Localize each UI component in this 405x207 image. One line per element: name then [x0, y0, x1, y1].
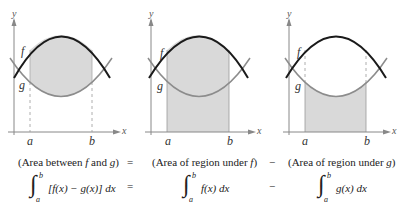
lower-bound: a — [36, 195, 40, 204]
label-b: b — [227, 135, 233, 147]
label-a: a — [302, 135, 308, 147]
panel-area-under-f: y x f g a b — [135, 0, 270, 145]
upper-bound: b — [39, 171, 43, 180]
y-axis-arrow-icon — [12, 18, 17, 26]
label-b: b — [364, 135, 370, 147]
label-g: g — [295, 80, 301, 92]
y-axis-label: y — [149, 9, 153, 19]
label-a: a — [165, 135, 171, 147]
formula-area-under-f: ∫ b a f(x) dx — [183, 174, 229, 202]
label-f: f — [297, 46, 300, 58]
label-g: g — [19, 79, 25, 91]
x-axis-arrow-icon — [248, 130, 256, 135]
x-axis-label: x — [392, 126, 396, 136]
panel-area-under-g: y x f g a b — [270, 0, 405, 145]
label-f: f — [160, 47, 163, 59]
graph-area-between — [0, 0, 135, 145]
shaded-region-under-f — [167, 35, 229, 132]
integral-sign-icon: ∫ b a — [30, 174, 46, 202]
caption-minus: − — [269, 156, 275, 168]
y-axis-arrow-icon — [149, 18, 154, 26]
x-axis-label: x — [257, 126, 261, 136]
label-b: b — [89, 135, 95, 147]
caption-area-between: (Area between f and g) — [18, 156, 119, 168]
formula-area-under-g: ∫ b a g(x) dx — [318, 174, 367, 202]
formula-minus: − — [269, 180, 275, 192]
caption-equals: = — [127, 156, 133, 168]
integrand: g(x) dx — [336, 182, 367, 194]
integral-sign-icon: ∫ b a — [183, 174, 199, 202]
integrand: [f(x) − g(x)] dx — [48, 182, 116, 194]
graph-area-under-f — [135, 0, 270, 145]
caption-area-under-f: (Area of region under f) — [152, 156, 257, 168]
graph-area-under-g — [270, 0, 405, 145]
x-axis-arrow-icon — [113, 130, 121, 135]
label-a: a — [27, 135, 33, 147]
formula-area-between: ∫ b a [f(x) − g(x)] dx — [30, 174, 116, 202]
label-f: f — [21, 45, 24, 57]
lower-bound: a — [324, 195, 328, 204]
y-axis-label: y — [287, 9, 291, 19]
y-axis-label: y — [12, 9, 16, 19]
integral-sign-icon: ∫ b a — [318, 174, 334, 202]
label-g: g — [157, 80, 163, 92]
curve-f — [286, 37, 386, 79]
caption-area-under-g: (Area of region under g) — [288, 156, 396, 168]
panel-area-between: y x f g a b — [0, 0, 135, 145]
upper-bound: b — [327, 171, 331, 180]
x-axis-label: x — [122, 126, 126, 136]
y-axis-arrow-icon — [287, 18, 292, 26]
lower-bound: a — [189, 195, 193, 204]
x-axis-arrow-icon — [383, 130, 391, 135]
integrand: f(x) dx — [201, 182, 229, 194]
upper-bound: b — [192, 171, 196, 180]
formula-equals: = — [127, 180, 133, 192]
